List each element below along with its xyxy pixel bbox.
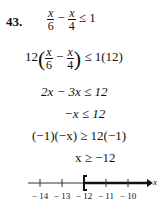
variable-label: x xyxy=(153,177,157,187)
tick-label: − 14 xyxy=(32,191,48,201)
number-line-graphic xyxy=(0,0,163,209)
tick-label: − 13 xyxy=(54,191,70,201)
tick-label: − 12 xyxy=(76,191,92,201)
tick-label: − 10 xyxy=(120,191,136,201)
tick-label: − 11 xyxy=(98,191,114,201)
